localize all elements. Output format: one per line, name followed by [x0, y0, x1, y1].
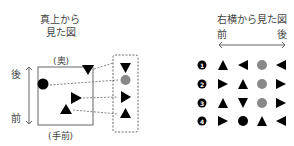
projected-triangle-right-icon: [121, 91, 131, 103]
projected-triangle-up-icon: [120, 108, 131, 118]
triangle-right-icon: [71, 92, 82, 104]
projection-lines: [50, 63, 118, 114]
triangle-up-icon: [60, 104, 72, 114]
projected-gray-circle-icon: [121, 75, 131, 85]
diagram-canvas: 1 2 3 4: [0, 0, 294, 146]
svg-text:4: 4: [200, 118, 204, 125]
option-4[interactable]: 4: [198, 116, 287, 126]
triangle-down-icon: [82, 65, 94, 75]
circle-icon: [38, 79, 49, 90]
option-2[interactable]: 2: [198, 79, 287, 89]
svg-text:3: 3: [200, 100, 204, 107]
top-view-box: [38, 67, 93, 125]
svg-text:1: 1: [200, 62, 204, 69]
option-1[interactable]: 1: [198, 60, 287, 70]
projected-triangle-down-icon: [120, 63, 131, 73]
option-3[interactable]: 3: [198, 98, 287, 108]
svg-text:2: 2: [200, 81, 204, 88]
